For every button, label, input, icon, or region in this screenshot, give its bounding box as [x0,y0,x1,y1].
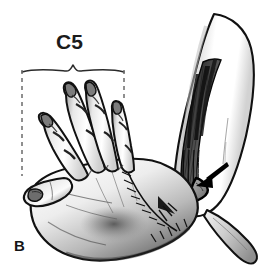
panel-label: B [14,238,25,253]
c5-label: C5 [56,31,83,52]
tendon-graft-strip [204,210,257,264]
palm [31,159,198,261]
figure-panel-b: C5 B [0,0,278,280]
anatomical-illustration [0,0,278,280]
